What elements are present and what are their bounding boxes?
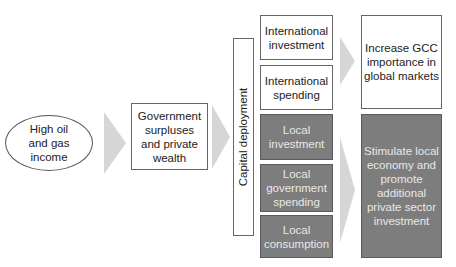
outcome-global-markets: Increase GCC importance in global market… xyxy=(361,15,442,109)
source-node-oil-gas-income: High oil and gas income xyxy=(5,115,93,171)
channel-local-consumption: Local consumption xyxy=(260,215,333,258)
government-surpluses-node: Government surpluses and private wealth xyxy=(131,103,208,170)
government-surpluses-label: Government surpluses and private wealth xyxy=(138,109,201,165)
flow-arrow-icon xyxy=(340,37,355,85)
channel-local-investment: Local investment xyxy=(260,114,333,160)
source-node-label: High oil and gas income xyxy=(29,122,70,164)
channel-international-investment: International investment xyxy=(260,15,333,60)
capital-deployment-bar: Capital deployment xyxy=(233,38,254,236)
outcome-local-economy: Stimulate local economy and promote addi… xyxy=(361,114,442,258)
capital-deployment-label: Capital deployment xyxy=(238,88,250,186)
channel-international-spending: International spending xyxy=(260,65,333,110)
flow-arrow-icon xyxy=(104,112,126,174)
flow-arrow-icon xyxy=(340,137,355,243)
channel-local-government-spending: Local government spending xyxy=(260,164,333,212)
flow-arrow-icon xyxy=(212,105,230,169)
